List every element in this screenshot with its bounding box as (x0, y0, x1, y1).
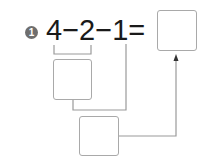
step1-answer-box[interactable] (53, 59, 92, 100)
connector-line-2 (118, 60, 176, 136)
arrow-up-icon (174, 54, 179, 61)
final-answer-box[interactable] (157, 10, 197, 51)
bracket-line (54, 45, 91, 54)
step2-answer-box[interactable] (79, 116, 119, 156)
